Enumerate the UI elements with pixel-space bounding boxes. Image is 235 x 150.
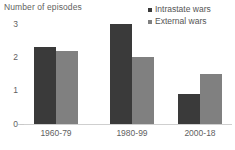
bar-external-2000-18 bbox=[200, 74, 222, 124]
chart-legend: Intrastate wars External wars bbox=[148, 4, 234, 28]
square-marker-icon bbox=[148, 20, 152, 24]
y-axis-title: Number of episodes bbox=[4, 2, 82, 12]
y-tick-mark bbox=[20, 124, 24, 125]
y-tick-label: 0 bbox=[2, 120, 18, 128]
x-tick-label: 1960-79 bbox=[24, 128, 88, 138]
bar-external-1960-79 bbox=[56, 51, 78, 124]
square-marker-icon bbox=[148, 8, 152, 12]
legend-item-external-wars: External wars bbox=[148, 16, 234, 27]
legend-item-intrastate-wars: Intrastate wars bbox=[148, 4, 234, 15]
x-axis-line bbox=[18, 124, 232, 125]
bar-external-1980-99 bbox=[132, 57, 154, 124]
legend-label-intrastate-wars: Intrastate wars bbox=[155, 4, 211, 15]
bar-intrastate-1960-79 bbox=[34, 47, 56, 124]
y-tick-label: 3 bbox=[2, 20, 18, 28]
y-tick-label: 1 bbox=[2, 86, 18, 94]
x-tick-label: 2000-18 bbox=[168, 128, 232, 138]
x-tick-label: 1980-99 bbox=[100, 128, 164, 138]
bar-intrastate-1980-99 bbox=[110, 24, 132, 124]
bar-chart: Number of episodes Intrastate wars Exter… bbox=[0, 0, 235, 150]
y-tick-label: 2 bbox=[2, 53, 18, 61]
bar-intrastate-2000-18 bbox=[178, 94, 200, 124]
legend-label-external-wars: External wars bbox=[155, 16, 207, 27]
